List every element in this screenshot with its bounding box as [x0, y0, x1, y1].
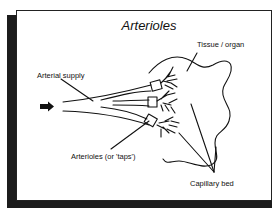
label-tissue-organ: Tissue / organ	[197, 40, 244, 49]
diagram-slide: Arterioles	[16, 10, 272, 201]
tissue-outline	[149, 57, 231, 166]
pointer-arterial-supply	[61, 79, 93, 101]
pointer-capillary-2	[179, 133, 214, 172]
pointer-capillary-1	[191, 104, 214, 172]
arteriole-tap-1	[150, 80, 162, 91]
capillary-tuft-1	[161, 67, 177, 89]
vessel-lower	[63, 111, 149, 125]
slide-shadow-left	[7, 15, 16, 208]
vessel-upper	[63, 85, 151, 102]
slide-shadow-bottom	[7, 200, 272, 208]
arteriole-tap-3	[144, 114, 157, 127]
pointer-tissue	[187, 53, 197, 71]
vessel-mid-a	[113, 100, 149, 101]
capillary-tuft-3	[157, 117, 179, 137]
vessel-mid-b	[113, 105, 149, 106]
vessel-lower-inner	[101, 107, 147, 119]
arteriole-tap-2	[148, 97, 157, 107]
pointer-arterioles	[111, 121, 149, 149]
label-capillary-bed: Capillary bed	[190, 179, 234, 188]
capillary-tuft-2	[157, 91, 177, 113]
right-arrow-icon	[40, 102, 54, 112]
label-arterial-supply: Arterial supply	[37, 71, 85, 80]
label-arterioles: Arterioles (or 'taps')	[71, 152, 136, 161]
